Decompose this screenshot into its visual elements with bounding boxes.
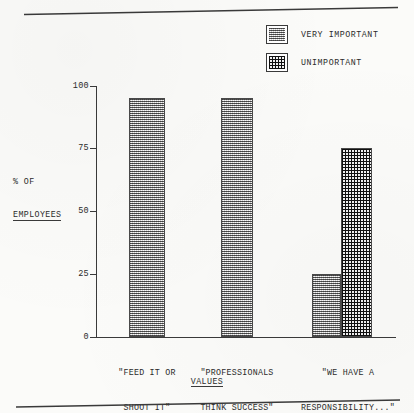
chart-legend: VERY IMPORTANT UNIMPORTANT (266, 22, 406, 78)
y-tick-25: 25 (52, 274, 97, 275)
bar-chart: % OF EMPLOYEES 100 75 50 25 0 "FEED IT O… (0, 0, 414, 413)
x-axis-line (96, 337, 396, 338)
bar-professionals-think-success-very-important (221, 98, 253, 337)
legend-swatch-fill-unimportant (269, 56, 285, 69)
y-tick-mark-50 (90, 211, 97, 212)
y-tick-label-75: 75 (55, 144, 89, 153)
legend-swatch-very-important (266, 25, 288, 44)
x-axis-title-text: VALUES (191, 377, 223, 387)
y-axis-title-line1: % OF (13, 176, 61, 187)
y-axis-line (96, 86, 97, 338)
y-tick-mark-100 (90, 86, 97, 87)
y-axis-title: % OF EMPLOYEES (13, 154, 61, 243)
y-tick-label-50: 50 (55, 207, 89, 216)
y-tick-mark-75 (90, 148, 97, 149)
legend-swatch-fill-very-important (269, 28, 285, 41)
legend-label-very-important: VERY IMPORTANT (301, 30, 378, 39)
y-tick-label-0: 0 (55, 333, 89, 342)
y-tick-100: 100 (52, 86, 97, 87)
y-tick-label-25: 25 (55, 270, 89, 279)
legend-swatch-unimportant (266, 53, 288, 72)
legend-label-unimportant: UNIMPORTANT (301, 58, 362, 67)
legend-item-very-important: VERY IMPORTANT (266, 22, 406, 46)
y-tick-0: 0 (52, 337, 97, 338)
bar-we-have-a-responsibility-unimportant (341, 148, 372, 337)
y-tick-50: 50 (52, 211, 97, 212)
y-tick-75: 75 (52, 148, 97, 149)
y-tick-mark-0 (90, 337, 97, 338)
bar-feed-it-or-shoot-it-very-important (129, 98, 165, 337)
y-tick-mark-25 (90, 274, 97, 275)
legend-item-unimportant: UNIMPORTANT (266, 50, 406, 74)
y-tick-label-100: 100 (55, 82, 89, 91)
bar-we-have-a-responsibility-very-important (312, 274, 341, 337)
x-axis-title: VALUES (0, 377, 414, 386)
page-rule-bottom (0, 396, 414, 410)
